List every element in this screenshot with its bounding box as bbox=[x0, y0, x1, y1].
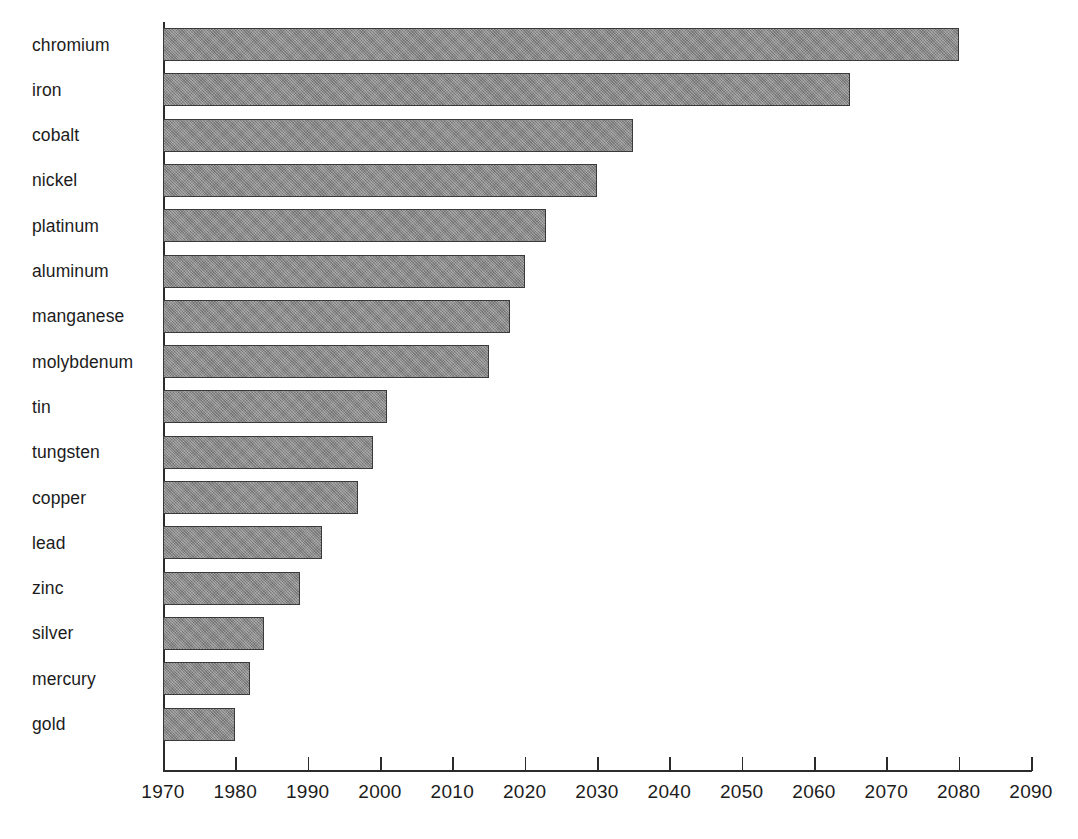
bar-mercury bbox=[163, 662, 250, 695]
x-tick-2030 bbox=[597, 757, 599, 771]
x-tick-label-2030: 2030 bbox=[575, 781, 618, 803]
bar-manganese bbox=[163, 300, 510, 333]
category-label-aluminum: aluminum bbox=[32, 261, 109, 281]
x-tick-1990 bbox=[308, 757, 310, 771]
bar-tin bbox=[163, 390, 387, 423]
x-tick-label-2090: 2090 bbox=[1009, 781, 1052, 803]
x-tick-2040 bbox=[669, 757, 671, 771]
x-tick-1980 bbox=[235, 757, 237, 771]
x-tick-label-1970: 1970 bbox=[141, 781, 184, 803]
bar-iron bbox=[163, 73, 850, 106]
x-tick-2080 bbox=[959, 757, 961, 771]
bar-chromium bbox=[163, 28, 959, 61]
category-label-copper: copper bbox=[32, 488, 86, 508]
category-label-silver: silver bbox=[32, 623, 73, 643]
x-tick-label-2050: 2050 bbox=[720, 781, 763, 803]
x-tick-2060 bbox=[814, 757, 816, 771]
x-tick-label-2010: 2010 bbox=[431, 781, 474, 803]
x-tick-2010 bbox=[452, 757, 454, 771]
category-label-tungsten: tungsten bbox=[32, 442, 100, 462]
x-tick-label-2040: 2040 bbox=[648, 781, 691, 803]
x-tick-label-2020: 2020 bbox=[503, 781, 546, 803]
category-label-mercury: mercury bbox=[32, 669, 96, 689]
bar-tungsten bbox=[163, 436, 373, 469]
bar-platinum bbox=[163, 209, 546, 242]
category-label-platinum: platinum bbox=[32, 216, 99, 236]
bar-chart: chromiumironcobaltnickelplatinumaluminum… bbox=[0, 0, 1078, 839]
bar-aluminum bbox=[163, 255, 525, 288]
x-tick-1970 bbox=[163, 757, 165, 771]
x-tick-label-1980: 1980 bbox=[214, 781, 257, 803]
x-tick-2050 bbox=[742, 757, 744, 771]
category-label-cobalt: cobalt bbox=[32, 125, 79, 145]
x-tick-label-2060: 2060 bbox=[792, 781, 835, 803]
category-label-iron: iron bbox=[32, 80, 62, 100]
plot-area bbox=[163, 22, 1031, 770]
x-tick-label-1990: 1990 bbox=[286, 781, 329, 803]
x-tick-2020 bbox=[525, 757, 527, 771]
category-label-chromium: chromium bbox=[32, 35, 110, 55]
category-label-lead: lead bbox=[32, 533, 66, 553]
category-label-zinc: zinc bbox=[32, 578, 64, 598]
x-tick-2000 bbox=[380, 757, 382, 771]
x-tick-2090 bbox=[1031, 757, 1033, 771]
bar-nickel bbox=[163, 164, 597, 197]
bar-copper bbox=[163, 481, 358, 514]
category-label-nickel: nickel bbox=[32, 170, 77, 190]
category-label-manganese: manganese bbox=[32, 306, 124, 326]
x-tick-label-2080: 2080 bbox=[937, 781, 980, 803]
category-label-tin: tin bbox=[32, 397, 51, 417]
category-label-column: chromiumironcobaltnickelplatinumaluminum… bbox=[0, 0, 160, 770]
bar-zinc bbox=[163, 572, 300, 605]
category-label-gold: gold bbox=[32, 714, 66, 734]
category-label-molybdenum: molybdenum bbox=[32, 352, 133, 372]
x-tick-label-2000: 2000 bbox=[358, 781, 401, 803]
x-tick-2070 bbox=[886, 757, 888, 771]
bar-lead bbox=[163, 526, 322, 559]
bar-gold bbox=[163, 708, 235, 741]
bar-molybdenum bbox=[163, 345, 489, 378]
bar-silver bbox=[163, 617, 264, 650]
x-tick-label-2070: 2070 bbox=[865, 781, 908, 803]
bar-cobalt bbox=[163, 119, 633, 152]
